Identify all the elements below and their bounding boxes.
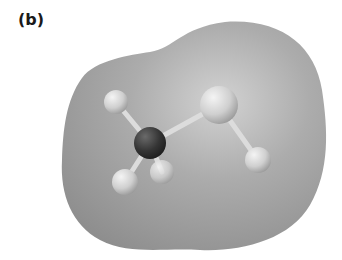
- hydrogen-atom-right: [245, 147, 271, 173]
- electron-density-surface: [62, 22, 326, 251]
- hydrogen-atom-top-left: [104, 90, 128, 114]
- molecule-figure: [0, 0, 342, 260]
- hydrogen-atom-bottom-left: [112, 169, 138, 195]
- carbon-atom: [134, 127, 166, 159]
- hydrogen-atom-back: [150, 160, 174, 184]
- oxygen-atom: [200, 86, 238, 124]
